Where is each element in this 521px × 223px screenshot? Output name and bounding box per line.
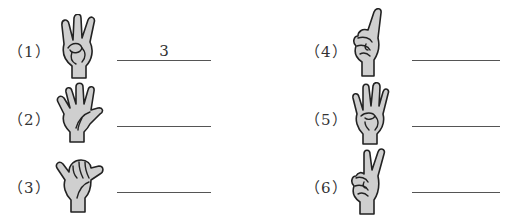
question-item-3: （3） [0, 150, 260, 216]
hand-one-finger-icon [350, 8, 390, 78]
hand-three-fingers-icon [58, 14, 100, 80]
hand-thumb-pinky-six-icon [55, 152, 105, 214]
answer-blank[interactable] [412, 42, 500, 61]
question-item-6: （6） [260, 150, 520, 216]
answer-blank[interactable]: 3 [117, 42, 211, 61]
item-label: （3） [8, 176, 51, 197]
answer-blank[interactable] [412, 174, 500, 193]
question-item-2: （2） [0, 82, 260, 148]
question-item-5: （5） [260, 82, 520, 148]
answer-blank[interactable] [117, 174, 211, 193]
question-item-1: （1） 3 [0, 14, 260, 80]
item-label: （1） [8, 40, 51, 61]
hand-four-fingers-icon [351, 82, 391, 146]
question-item-4: （4） [260, 14, 520, 80]
answer-blank[interactable] [117, 108, 211, 127]
item-label: （4） [305, 40, 348, 61]
item-label: （2） [8, 108, 51, 129]
answer-blank[interactable] [412, 108, 500, 127]
hand-two-fingers-icon [348, 148, 388, 216]
item-label: （5） [305, 108, 348, 129]
hand-open-five-icon [56, 82, 104, 144]
item-label: （6） [305, 176, 348, 197]
